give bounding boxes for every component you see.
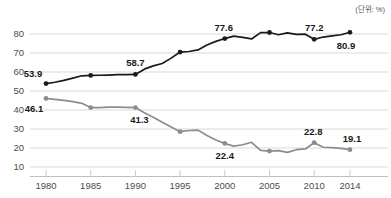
- data-point-marker: [312, 37, 317, 42]
- x-tick-label: 2014: [330, 180, 370, 191]
- data-point-marker: [178, 50, 183, 55]
- data-point-marker: [133, 105, 138, 110]
- data-label-58.7: 58.7: [118, 57, 152, 68]
- data-label-22.8: 22.8: [296, 126, 330, 137]
- x-tick-label: 1980: [26, 180, 66, 191]
- data-point-marker: [348, 30, 353, 35]
- data-label-19.1: 19.1: [335, 133, 369, 144]
- data-point-marker: [178, 129, 183, 134]
- data-point-marker: [222, 141, 227, 146]
- data-point-marker: [44, 96, 49, 101]
- data-label-77.6: 77.6: [207, 22, 241, 33]
- data-point-marker: [348, 147, 353, 152]
- data-point-marker: [44, 81, 49, 86]
- y-tick-label: 80: [4, 28, 24, 39]
- x-tick-label: 1985: [71, 180, 111, 191]
- line-chart: (단위: %) 8070605040302010 198019851990199…: [0, 0, 391, 198]
- data-point-marker: [267, 149, 272, 154]
- data-label-41.3: 41.3: [122, 114, 156, 125]
- data-point-marker: [88, 73, 93, 78]
- y-tick-label: 50: [4, 85, 24, 96]
- y-tick-label: 70: [4, 47, 24, 58]
- x-tick-label: 1990: [115, 180, 155, 191]
- y-tick-label: 10: [4, 161, 24, 172]
- data-label-22.4: 22.4: [208, 150, 242, 161]
- data-label-77.2: 77.2: [297, 22, 331, 33]
- y-tick-label: 30: [4, 123, 24, 134]
- x-tick-label: 2010: [294, 180, 334, 191]
- data-point-marker: [312, 140, 317, 145]
- data-label-53.9: 53.9: [16, 68, 50, 79]
- data-label-80.9: 80.9: [329, 40, 363, 51]
- data-point-marker: [88, 105, 93, 110]
- x-tick-label: 2000: [205, 180, 245, 191]
- x-tick-label: 2005: [250, 180, 290, 191]
- y-tick-label: 20: [4, 142, 24, 153]
- chart-plot-area: [0, 0, 391, 198]
- x-tick-label: 1995: [160, 180, 200, 191]
- data-point-marker: [267, 30, 272, 35]
- data-point-marker: [222, 36, 227, 41]
- data-label-46.1: 46.1: [17, 103, 51, 114]
- data-point-marker: [133, 72, 138, 77]
